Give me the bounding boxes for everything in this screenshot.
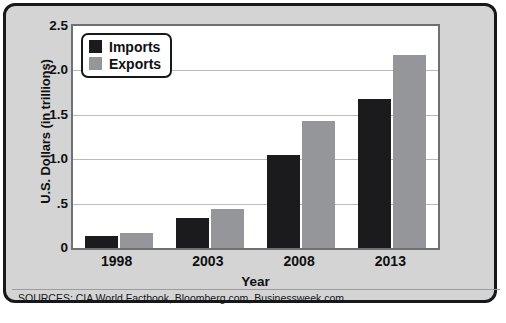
bar-exports-2013 [393,55,426,248]
plot-area: Imports Exports [71,24,440,250]
bar-imports-1998 [85,236,118,248]
x-tick-label: 2003 [168,254,248,268]
y-tick-label: 2.5 [32,19,68,33]
bar-imports-2013 [358,99,391,248]
chart-legend: Imports Exports [81,33,172,78]
legend-item-imports: Imports [89,38,161,55]
y-tick-label: 1.0 [32,152,68,166]
x-axis-ticks: 1998200320082013 [71,254,440,274]
x-axis-title: Year [71,274,440,289]
chart-figure: U.S. Dollars (in trillions) 0.51.01.52.0… [0,0,506,323]
bar-exports-1998 [120,233,153,248]
y-tick-label: 0 [32,241,68,255]
y-tick-label: 2.0 [32,63,68,77]
legend-label-imports: Imports [109,40,160,54]
legend-label-exports: Exports [109,57,161,71]
x-tick-label: 2008 [259,254,339,268]
bar-imports-2003 [176,218,209,248]
exports-swatch-icon [89,57,102,70]
bar-exports-2008 [302,121,335,248]
chart-frame: U.S. Dollars (in trillions) 0.51.01.52.0… [3,3,497,303]
x-tick-label: 1998 [77,254,157,268]
y-axis-ticks: 0.51.01.52.02.5 [24,24,68,250]
x-tick-label: 2013 [350,254,430,268]
legend-item-exports: Exports [89,55,161,72]
bar-exports-2003 [211,209,244,248]
bar-imports-2008 [267,155,300,248]
imports-swatch-icon [89,40,102,53]
sources-note: SOURCES: CIA World Factbook, Bloomberg.c… [18,292,344,304]
y-tick-label: .5 [32,197,68,211]
footer-divider [12,289,500,290]
y-tick-label: 1.5 [32,108,68,122]
